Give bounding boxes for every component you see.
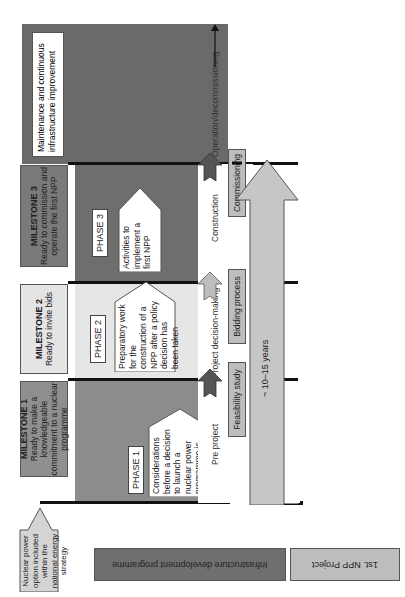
milestone2-text: Ready to invite bids (44, 285, 54, 373)
stage-operation: Operation/decommissioning (210, 52, 220, 157)
legend-npp-label: 1st. NPP Project (312, 560, 378, 570)
phase1-label: PHASE 1 (128, 446, 144, 494)
diagram-canvas: Nuclear power option included within the… (0, 0, 405, 597)
stage-pre-project: Pre project (210, 424, 220, 465)
milestone3-title: MILESTONE 3 (29, 166, 39, 266)
legend-infrastructure-programme-box: Infrastructure development programme (94, 548, 286, 581)
phase2-label: PHASE 2 (90, 315, 106, 363)
milestone1-text: Ready to make a knowledgeable commitment… (29, 382, 69, 476)
milestone2-title: MILESTONE 2 (34, 285, 44, 373)
milestone3-box: MILESTONE 3 Ready to commission and oper… (20, 165, 68, 267)
stage-project-decision: Project decision-making (210, 288, 220, 378)
legend-infrastructure-label: Infrastructure development programme (112, 560, 268, 570)
operation-box: Maintenance and continuous infrastructur… (32, 32, 64, 157)
stage-construction: Construction (210, 194, 220, 242)
operation-continue-arrow (209, 23, 221, 67)
phase3-text: Activities to implement a first NPP (121, 209, 153, 269)
bidding-arrow (196, 270, 226, 300)
feasibility-arrow (196, 367, 226, 397)
legend-npp-project-box: 1st. NPP Project (290, 548, 400, 581)
duration-arrow (232, 153, 304, 505)
operation-box-text: Maintenance and continuous infrastructur… (36, 43, 57, 152)
phase3-description: Activities to implement a first NPP (118, 186, 162, 272)
duration-label: ~ 10–15 years (260, 340, 270, 397)
phase2-text: Preparatory work for the construction of… (117, 301, 180, 369)
milestone3-text: Ready to commission and operate the firs… (39, 166, 59, 266)
milestone2-box: MILESTONE 2 Ready to invite bids (20, 284, 68, 374)
bottom-boundary-line (300, 501, 303, 505)
milestone1-box: MILESTONE 1 Ready to make a knowledgeabl… (20, 381, 68, 477)
milestone1-title: MILESTONE 1 (19, 382, 29, 476)
phase3-label: PHASE 3 (92, 209, 108, 257)
phase2-description: Preparatory work for the construction of… (114, 280, 176, 372)
start-box: Nuclear power option included within the… (21, 533, 59, 589)
commissioning-arrow (196, 151, 226, 181)
